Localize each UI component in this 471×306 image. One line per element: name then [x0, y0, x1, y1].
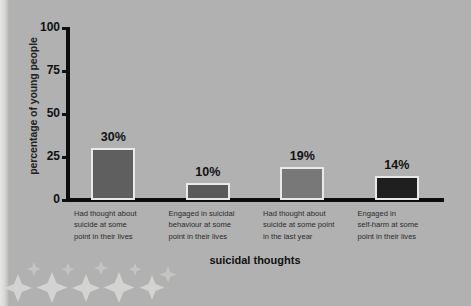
x-category-label-line: behaviour at some — [169, 219, 254, 230]
x-category-label: Engaged in suicidalbehaviour at somepoin… — [169, 208, 254, 242]
y-tick-label: 100 — [30, 20, 60, 34]
x-category-label-line: Had thought about — [263, 208, 348, 219]
x-category-label-line: point in their lives — [169, 231, 254, 242]
x-category-label: Had thought aboutsuicide at some pointin… — [263, 208, 348, 242]
x-category-label-line: suicide at some point — [263, 219, 348, 230]
x-axis-title: suicidal thoughts — [66, 254, 444, 266]
bar-value-label: 19% — [272, 149, 332, 163]
y-tick-label: 50 — [30, 106, 60, 120]
x-category-label-line: Engaged in — [358, 208, 443, 219]
bar-value-label: 30% — [83, 130, 143, 144]
x-category-label-line: point in their lives — [74, 231, 159, 242]
x-category-label-line: Had thought about — [74, 208, 159, 219]
x-category-label-line: Engaged in suicidal — [169, 208, 254, 219]
bar — [375, 176, 419, 200]
x-category-label-line: self-harm at some — [358, 219, 443, 230]
y-tick-label: 25 — [30, 149, 60, 163]
x-category-label-line: in the last year — [263, 231, 348, 242]
bar-value-label: 10% — [178, 165, 238, 179]
x-category-label-line: suicide at some — [74, 219, 159, 230]
page-background: percentage of young people 0255075100 30… — [0, 0, 471, 306]
bar — [186, 183, 230, 200]
y-axis-line — [66, 27, 70, 202]
x-category-label: Had thought aboutsuicide at somepoint in… — [74, 208, 159, 242]
bar — [280, 167, 324, 200]
x-category-label-line: point in their lives — [358, 231, 443, 242]
y-tick-label: 0 — [30, 192, 60, 206]
bar-chart: percentage of young people 0255075100 30… — [0, 0, 471, 306]
y-tick-label: 75 — [30, 63, 60, 77]
x-category-label: Engaged inself-harm at somepoint in thei… — [358, 208, 443, 242]
bar-value-label: 14% — [367, 158, 427, 172]
bar — [91, 148, 135, 200]
